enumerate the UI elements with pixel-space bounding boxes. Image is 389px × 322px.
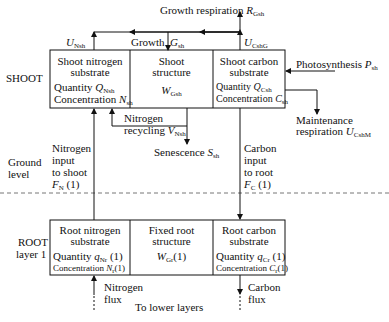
c-input-sym: FC (1) bbox=[244, 178, 271, 194]
c-input-l2: input bbox=[244, 154, 267, 166]
c-flux-l2: flux bbox=[248, 293, 266, 305]
shoot-c-title2: substrate bbox=[213, 66, 285, 78]
n-flux-l1: Nitrogen bbox=[104, 281, 143, 293]
shoot-structure-title2: structure bbox=[130, 66, 213, 78]
shoot-c-conc: Concentration Csh bbox=[216, 93, 288, 108]
maintenance-label2: respiration UCshM bbox=[296, 125, 371, 141]
n-input-l3: to shoot bbox=[52, 166, 87, 178]
shoot-structure-sym: WGsh bbox=[130, 84, 213, 100]
u-nsh-label: UNsh bbox=[66, 36, 85, 52]
root-c-title2: substrate bbox=[213, 235, 285, 247]
root-structure-sym: WGr(1) bbox=[130, 250, 213, 266]
n-input-sym: FN (1) bbox=[52, 178, 79, 194]
n-input-l1: Nitrogen bbox=[52, 142, 91, 154]
ground-label1: Ground bbox=[8, 156, 42, 168]
n-flux-l2: flux bbox=[104, 293, 122, 305]
shoot-n-title2: substrate bbox=[50, 66, 130, 78]
root-structure-title2: structure bbox=[130, 235, 213, 247]
root-label1: ROOT bbox=[18, 236, 48, 248]
u-cshg-label: UCshG bbox=[244, 36, 268, 52]
root-label2: layer 1 bbox=[16, 248, 46, 260]
c-flux-l1: Carbon bbox=[248, 281, 280, 293]
c-input-l1: Carbon bbox=[244, 142, 276, 154]
root-n-conc: Concentration Nr(1) bbox=[53, 262, 125, 277]
recycling-label1: Nitrogen bbox=[124, 112, 163, 124]
photosynthesis-label: Photosynthesis Psh bbox=[296, 58, 378, 74]
lower-layers-label: To lower layers bbox=[135, 301, 203, 313]
ground-label2: level bbox=[8, 168, 29, 180]
n-input-l2: input bbox=[52, 154, 75, 166]
senescence-label: Senescence Ssh bbox=[154, 146, 219, 162]
growth-respiration-label: Growth respiration RGsh bbox=[160, 4, 264, 20]
shoot-n-conc: Concentration Nsh bbox=[54, 93, 133, 109]
root-n-title2: substrate bbox=[50, 235, 130, 247]
growth-label: Growth Gsh bbox=[131, 36, 184, 52]
recycling-label2: recycling VNsh bbox=[124, 124, 186, 140]
shoot-label: SHOOT bbox=[6, 72, 43, 84]
root-c-conc: Concentration Cr(1) bbox=[216, 262, 288, 277]
c-input-l3: to root bbox=[244, 166, 273, 178]
